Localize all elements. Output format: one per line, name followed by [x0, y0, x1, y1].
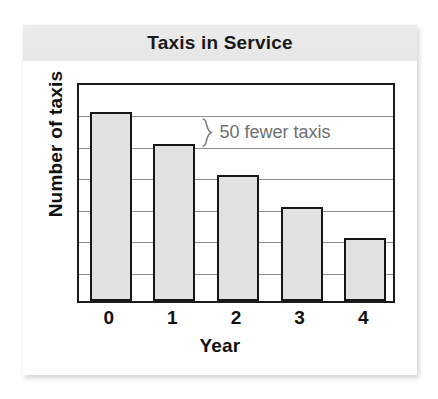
x-axis-tick-labels: 01234 [77, 307, 395, 331]
x-tick-label-3: 3 [279, 307, 321, 329]
bar-1 [153, 144, 195, 301]
chart-title-band: Taxis in Service [23, 25, 417, 61]
figure-card: Taxis in Service Number of taxis 50 fewe… [23, 25, 417, 375]
x-axis-label: Year [23, 335, 417, 357]
bar-4 [344, 238, 386, 301]
x-tick-label-4: 4 [342, 307, 384, 329]
bar-2 [217, 175, 259, 301]
plot-area: 50 fewer taxis [77, 83, 395, 303]
page-title: Taxis in Service [147, 32, 292, 54]
y-axis-label: Number of taxis [45, 49, 67, 239]
annotation-50-fewer-taxis: 50 fewer taxis [202, 116, 330, 147]
x-tick-label-0: 0 [88, 307, 130, 329]
annotation-label: 50 fewer taxis [219, 122, 330, 143]
curly-brace-icon [202, 117, 213, 148]
x-tick-label-2: 2 [215, 307, 257, 329]
x-tick-label-1: 1 [151, 307, 193, 329]
bar-3 [281, 207, 323, 301]
bar-0 [90, 112, 132, 301]
